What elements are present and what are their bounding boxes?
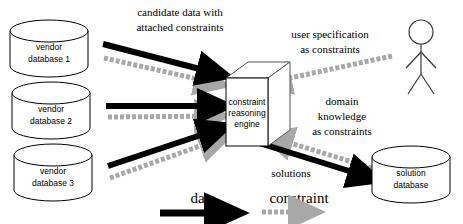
- actor-head-icon: [409, 20, 433, 44]
- cylinder-top: [12, 82, 90, 104]
- constraint-arrow-db2: [108, 116, 224, 117]
- diagram-svg: vendor database 1 vendor database 2 vend…: [0, 0, 463, 224]
- actor-leg-right-icon: [421, 74, 434, 94]
- actor-arm-right-icon: [421, 52, 436, 68]
- vendor-database-2-label-line2: database 2: [30, 116, 72, 126]
- legend-constraint-label: constraint: [269, 190, 329, 206]
- solutions-label: solutions: [271, 167, 311, 179]
- solution-database[interactable]: solution database: [372, 146, 450, 203]
- vendor-database-3[interactable]: vendor database 3: [14, 144, 92, 201]
- vendor-database-3-label-line2: database 3: [32, 178, 74, 188]
- vendor-database-2[interactable]: vendor database 2: [12, 82, 90, 139]
- domain-knowledge-line1: domain: [326, 95, 359, 107]
- edge-label-user-specification: user specification as constraints: [291, 28, 369, 55]
- vendor-database-1[interactable]: vendor database 1: [10, 20, 88, 77]
- vendor-database-1-label-line1: vendor: [36, 42, 62, 52]
- solution-database-label-line1: solution: [396, 168, 426, 178]
- edge-label-domain-knowledge: domain knowledge as constraints: [312, 95, 372, 137]
- edge-label-candidate-data: candidate data with attached constraints: [136, 6, 223, 33]
- cylinder-top: [372, 146, 450, 168]
- actor-leg-left-icon: [408, 74, 421, 94]
- edge-label-solutions: solutions: [271, 167, 311, 179]
- user-spec-line2: as constraints: [300, 43, 360, 55]
- user-actor[interactable]: [406, 20, 436, 94]
- candidate-data-line2: attached constraints: [136, 21, 223, 33]
- vendor-database-3-label-line1: vendor: [40, 166, 66, 176]
- vendor-database-1-label-line2: database 1: [28, 54, 70, 64]
- engine-label-line1: constraint: [229, 97, 266, 107]
- domain-knowledge-line2: knowledge: [318, 110, 366, 122]
- actor-arm-left-icon: [406, 52, 421, 68]
- candidate-data-line1: candidate data with: [137, 6, 223, 18]
- diagram-canvas: vendor database 1 vendor database 2 vend…: [0, 0, 463, 224]
- legend: data constraint: [160, 190, 329, 213]
- vendor-database-2-label-line1: vendor: [38, 104, 64, 114]
- domain-knowledge-line3: as constraints: [312, 125, 372, 137]
- user-spec-line1: user specification: [291, 28, 369, 40]
- engine-label-line3: engine: [234, 119, 260, 129]
- cylinder-top: [10, 20, 88, 42]
- engine-label-line2: reasoning: [228, 108, 266, 118]
- cylinder-top: [14, 144, 92, 166]
- constraint-reasoning-engine[interactable]: constraint reasoning engine: [226, 62, 290, 146]
- legend-data-label: data: [191, 190, 216, 206]
- solution-database-label-line2: database: [394, 180, 429, 190]
